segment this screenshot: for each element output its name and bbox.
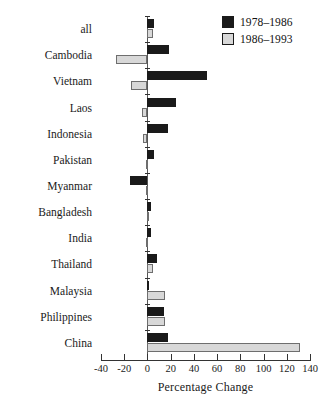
x-axis-tick [240,354,241,361]
x-axis-tick [194,354,195,361]
x-axis-tick [310,354,311,361]
y-axis-label: Indonesia [0,128,96,140]
bar [146,238,148,247]
bar [147,98,176,107]
y-axis-tick [145,16,150,17]
bar [147,291,164,300]
bar [147,202,150,211]
y-axis-tick [145,68,150,69]
bar [147,45,169,54]
y-axis-tick [145,173,150,174]
bar [147,29,152,38]
bar [142,108,148,117]
x-axis-tick [147,354,148,361]
y-axis-label: China [0,337,96,349]
bar [147,150,154,159]
y-axis-label: Malaysia [0,285,96,297]
bar [147,281,149,290]
bar [131,81,147,90]
x-axis-title: Percentage Change [101,380,310,395]
bar [147,124,168,133]
y-axis-label: all [0,23,96,35]
y-axis-label: Bangladesh [0,206,96,218]
bar [147,71,206,80]
x-axis-tick [171,354,172,361]
y-axis-label: Pakistan [0,154,96,166]
x-axis-tick [264,354,265,361]
x-axis-tick [287,354,288,361]
bar [146,186,148,195]
bar [147,333,168,342]
y-axis-label: India [0,232,96,244]
y-axis-tick [145,147,150,148]
y-axis-tick [145,330,150,331]
y-axis-tick [145,199,150,200]
y-axis-tick [145,42,150,43]
x-axis-tick-label: 140 [290,363,330,374]
y-axis-label: Myanmar [0,180,96,192]
bar [147,19,154,28]
x-axis-tick [217,354,218,361]
x-axis-tick [124,354,125,361]
y-axis-tick [145,121,150,122]
bar [147,307,163,316]
bar-chart: 1978–1986 1986–1993 allCambodiaVietnamLa… [0,0,331,407]
bar [146,160,148,169]
y-axis-label: Philippines [0,311,96,323]
plot-area [101,16,310,356]
bar [143,134,148,143]
bar [147,264,153,273]
bar [147,254,156,263]
y-axis-label: Vietnam [0,75,96,87]
y-axis-label: Laos [0,102,96,114]
y-axis-label: Cambodia [0,49,96,61]
bar [147,228,150,237]
bar [147,343,299,352]
y-axis-tick [145,94,150,95]
y-axis-tick [145,225,150,226]
y-axis-label: Thailand [0,258,96,270]
y-axis-tick [145,278,150,279]
bar [130,176,147,185]
bar [147,212,149,221]
bar [147,317,164,326]
bar [116,55,147,64]
x-axis-tick [101,354,102,361]
y-axis-tick [145,251,150,252]
y-axis-tick [145,304,150,305]
x-axis-line [101,360,310,361]
